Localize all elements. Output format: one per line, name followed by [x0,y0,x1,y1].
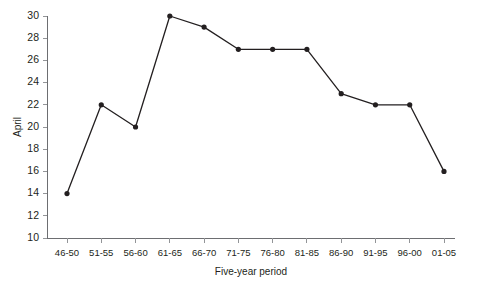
y-tick-label: 30 [27,9,39,21]
data-point-marker [407,102,412,107]
data-point-marker [133,124,138,129]
line-chart: 1012141618202224262830 46-5051-5556-6061… [0,0,480,293]
x-tick-labels: 46-5051-5556-6061-6566-7071-7576-8081-85… [55,247,456,258]
data-point-marker [64,191,69,196]
x-tick-label: 51-55 [89,247,113,258]
x-tick-label: 91-95 [363,247,387,258]
data-point-marker [99,102,104,107]
x-tick-label: 56-60 [123,247,147,258]
x-tick-label: 86-90 [329,247,353,258]
data-point-marker [270,47,275,52]
series-line-april [67,16,444,194]
y-tick-label: 24 [27,75,39,87]
x-tick-label: 81-85 [295,247,319,258]
x-tick-label: 71-75 [226,247,250,258]
x-axis: 46-5051-5556-6061-6566-7071-7576-8081-85… [47,238,456,258]
data-series [64,13,446,196]
y-axis-title: April [12,117,23,137]
y-tick-label: 26 [27,53,39,65]
y-tick-label: 12 [27,209,39,221]
data-point-marker [373,102,378,107]
x-tick-label: 61-65 [158,247,182,258]
x-tick-label: 96-00 [398,247,422,258]
x-tick-marks [67,238,444,243]
y-tick-label: 10 [27,231,39,243]
y-tick-label: 20 [27,120,39,132]
data-point-marker [236,47,241,52]
chart-container: 1012141618202224262830 46-5051-5556-6061… [0,0,480,293]
x-tick-label: 76-80 [260,247,284,258]
y-tick-label: 14 [27,186,39,198]
data-point-marker [441,169,446,174]
y-tick-label: 22 [27,98,39,110]
x-tick-label: 46-50 [55,247,79,258]
y-tick-labels: 1012141618202224262830 [27,9,39,243]
data-point-marker [167,13,172,18]
x-tick-label: 01-05 [432,247,456,258]
x-tick-label: 66-70 [192,247,216,258]
y-tick-marks [43,16,47,238]
data-point-marker [339,91,344,96]
y-tick-label: 18 [27,142,39,154]
y-axis: 1012141618202224262830 [27,9,47,243]
y-tick-label: 16 [27,164,39,176]
x-axis-title: Five-year period [215,266,287,277]
y-tick-label: 28 [27,31,39,43]
data-point-marker [201,25,206,30]
data-point-marker [304,47,309,52]
